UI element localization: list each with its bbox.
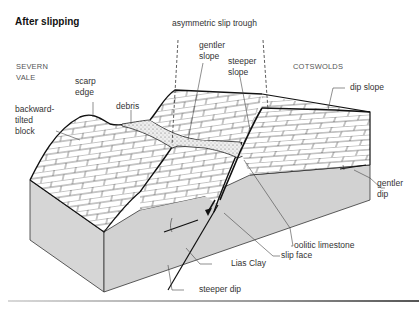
label-slip-face: slip face [281, 250, 312, 261]
label-backward-tilted-block: backward- tilted block [15, 104, 54, 137]
label-gentler-slope-line1: gentler [199, 40, 225, 51]
label-scarp-edge: scarp edge [75, 76, 96, 98]
label-lias-clay: Lias Clay [231, 258, 266, 269]
label-scarp-edge-line2: edge [75, 87, 96, 98]
label-gentler-dip-line1: gentler [377, 178, 403, 189]
label-steeper-slope-line1: steeper [228, 56, 256, 67]
label-steeper-slope: steeper slope [228, 56, 256, 78]
region-severn-vale: SEVERN VALE [16, 61, 48, 83]
label-btb-line3: block [15, 126, 54, 137]
region-severn-line1: SEVERN [16, 61, 48, 72]
bottom-rule [8, 300, 419, 302]
label-gentler-slope: gentler slope [199, 40, 225, 62]
label-btb-line1: backward- [15, 104, 54, 115]
label-gentler-dip-line2: dip [377, 189, 403, 200]
label-asymmetric-slip-trough: asymmetric slip trough [172, 18, 257, 29]
label-dip-slope: dip slope [350, 82, 384, 93]
region-cotswolds: COTSWOLDS [293, 61, 343, 72]
label-btb-line2: tilted [15, 115, 54, 126]
label-steeper-dip: steeper dip [199, 284, 241, 295]
label-scarp-edge-line1: scarp [75, 76, 96, 87]
label-gentler-dip: gentler dip [377, 178, 403, 200]
label-debris: debris [116, 101, 139, 112]
region-severn-line2: VALE [16, 72, 48, 83]
label-gentler-slope-line2: slope [199, 51, 225, 62]
label-steeper-slope-line2: slope [228, 67, 256, 78]
